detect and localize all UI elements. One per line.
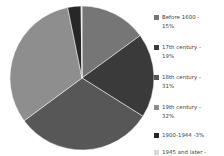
chart-legend: Before 1600 - 15%17th century - 19%18th … [154, 5, 224, 153]
legend-item[interactable]: 17th century - 19% [154, 43, 224, 60]
legend-item-label: 18th century - 31% [162, 73, 201, 90]
legend-item-label: 1900-1944 -3% [162, 131, 204, 140]
legend-swatch-1945-and-later [154, 150, 159, 155]
pie-chart-figure: Before 1600 - 15%17th century - 19%18th … [0, 0, 224, 156]
legend-item-label: 17th century - 19% [162, 43, 201, 60]
legend-swatch-before-1600 [154, 15, 159, 20]
legend-swatch-17th-century [154, 45, 159, 50]
legend-swatch-19th-century [154, 105, 159, 110]
pie-chart-plot-area [8, 3, 156, 153]
legend-item[interactable]: 18th century - 31% [154, 73, 224, 90]
legend-item-label: 19th century - 32% [162, 103, 201, 120]
legend-item-label: Before 1600 - 15% [162, 13, 199, 30]
legend-item[interactable]: Before 1600 - 15% [154, 13, 224, 30]
legend-item-label: 1945 and later - 0.2% [162, 148, 206, 156]
pie-chart-svg [8, 3, 156, 153]
legend-swatch-1900-1944 [154, 133, 159, 138]
legend-item[interactable]: 1945 and later - 0.2% [154, 148, 224, 156]
legend-swatch-18th-century [154, 75, 159, 80]
pie-slice-group [10, 6, 154, 150]
legend-item[interactable]: 1900-1944 -3% [154, 131, 224, 140]
legend-item[interactable]: 19th century - 32% [154, 103, 224, 120]
